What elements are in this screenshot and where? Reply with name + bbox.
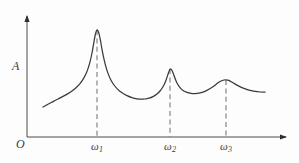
plot-canvas [0,0,299,163]
x-tick-label-omega-1: ω1 [91,141,103,154]
resonance-curve-figure: A O ω1 ω2 ω3 [0,0,299,163]
x-tick-label-omega-3: ω3 [220,141,232,154]
origin-label: O [16,138,25,150]
omega-symbol-2: ω [164,140,172,152]
resonance-response-curve [43,30,265,107]
omega-subscript-2: 2 [172,145,176,154]
omega-subscript-3: 3 [228,145,232,154]
x-tick-label-omega-2: ω2 [164,141,176,154]
omega-symbol-3: ω [220,140,228,152]
y-axis-label: A [12,60,19,72]
drop-lines-group [97,30,226,137]
omega-symbol-1: ω [91,140,99,152]
omega-subscript-1: 1 [99,145,103,154]
